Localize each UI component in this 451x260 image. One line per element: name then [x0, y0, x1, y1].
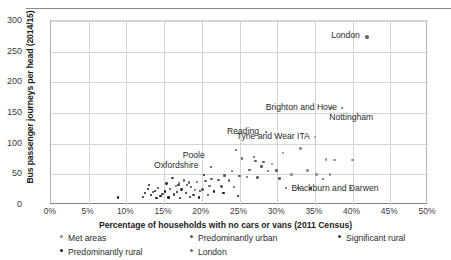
data-point: [222, 192, 224, 194]
y-axis-title: Bus passenger journeys per head (2014/15…: [25, 0, 35, 195]
data-point: [235, 149, 237, 151]
x-tick-label: 45%: [369, 207, 409, 216]
data-point: [203, 174, 205, 176]
legend-marker-icon: [190, 235, 193, 238]
data-point: [315, 173, 317, 175]
data-point: [282, 152, 284, 154]
data-point: [161, 193, 163, 195]
data-point: [183, 179, 185, 181]
x-tick-label: 15%: [143, 207, 183, 216]
data-point: [290, 173, 292, 175]
data-point: [165, 182, 167, 184]
point-label: Nottingham: [329, 112, 373, 122]
data-point: [186, 184, 188, 186]
legend-marker-icon: [60, 249, 63, 252]
data-point: [148, 184, 150, 186]
data-point: [208, 185, 210, 187]
data-point: [164, 190, 166, 192]
data-point: [142, 196, 144, 198]
y-tick-label: 200: [0, 77, 22, 86]
data-point: [117, 196, 119, 198]
legend-label: Met areas: [68, 233, 106, 243]
data-point: [169, 188, 171, 190]
data-point: [167, 196, 169, 198]
point-label: Blackburn and Darwen: [292, 183, 379, 193]
data-point: [322, 178, 324, 180]
x-tick-label: 0%: [30, 207, 70, 216]
point-label: Oxfordshire: [154, 160, 198, 170]
legend-item-london[interactable]: London: [190, 246, 227, 257]
data-point: [254, 160, 256, 162]
data-point: [260, 165, 262, 167]
data-point: [201, 188, 203, 190]
data-point: [185, 192, 187, 194]
data-point: [241, 157, 243, 159]
data-point: [217, 179, 219, 181]
data-point: [271, 163, 273, 165]
data-point: [299, 147, 301, 149]
x-tick-label: 5%: [68, 207, 108, 216]
data-point: [365, 35, 368, 38]
data-point: [210, 166, 212, 168]
data-point: [223, 174, 225, 176]
data-point: [173, 193, 175, 195]
data-point: [210, 178, 212, 180]
data-point: [159, 195, 161, 197]
data-point: [207, 194, 209, 196]
point-label: London: [331, 30, 360, 40]
x-tick-label: 40%: [332, 207, 372, 216]
data-point: [154, 190, 156, 192]
chart-page: Bus passenger journeys per head (2014/15…: [0, 0, 451, 260]
data-point: [147, 188, 149, 190]
chart-legend: Met areasPredominantly urbanSignificant …: [60, 232, 450, 258]
data-point: [267, 170, 269, 172]
plot-area: LondonNottinghamBrighton and HoveTyne an…: [50, 20, 427, 204]
data-point: [190, 186, 192, 188]
header-divider: [26, 8, 451, 9]
data-point: [196, 181, 198, 183]
gridline-vertical: [390, 21, 391, 205]
data-point: [220, 185, 222, 187]
legend-item-met[interactable]: Met areas: [60, 232, 106, 243]
point-label: Reading: [227, 126, 259, 136]
data-point: [233, 186, 235, 188]
legend-item-predrural[interactable]: Predominantly rural: [60, 246, 143, 257]
x-axis-title: Percentage of households with no cars or…: [0, 220, 451, 230]
data-point: [179, 197, 181, 199]
y-tick-label: 150: [0, 108, 22, 117]
y-tick-label: 300: [0, 16, 22, 25]
x-tick-label: 50%: [407, 207, 447, 216]
data-point: [248, 169, 250, 171]
data-point: [231, 170, 233, 172]
legend-label: London: [198, 247, 227, 257]
data-point: [275, 169, 277, 171]
data-point: [329, 173, 331, 175]
data-point: [155, 197, 157, 199]
x-tick-label: 25%: [219, 207, 259, 216]
data-point: [278, 177, 280, 179]
data-point: [194, 189, 196, 191]
legend-label: Predominantly rural: [68, 247, 143, 257]
legend-marker-icon: [60, 235, 63, 238]
y-tick-label: 0: [0, 200, 22, 209]
data-point: [150, 194, 152, 196]
legend-marker-icon: [338, 235, 341, 238]
data-point: [144, 192, 146, 194]
data-point: [213, 190, 215, 192]
gridline-vertical: [202, 21, 203, 205]
x-tick-label: 35%: [294, 207, 334, 216]
data-point: [171, 177, 173, 179]
y-tick-label: 250: [0, 47, 22, 56]
data-point: [198, 196, 200, 198]
legend-item-purban[interactable]: Predominantly urban: [190, 232, 277, 243]
data-point: [204, 180, 206, 182]
data-point: [256, 176, 258, 178]
data-point: [306, 169, 308, 171]
data-point: [177, 184, 179, 186]
y-tick-label: 50: [0, 169, 22, 178]
gridline-vertical: [164, 21, 165, 205]
legend-marker-icon: [190, 249, 193, 252]
data-point: [246, 176, 248, 178]
data-point: [228, 179, 230, 181]
legend-item-sigrural[interactable]: Significant rural: [338, 232, 405, 243]
